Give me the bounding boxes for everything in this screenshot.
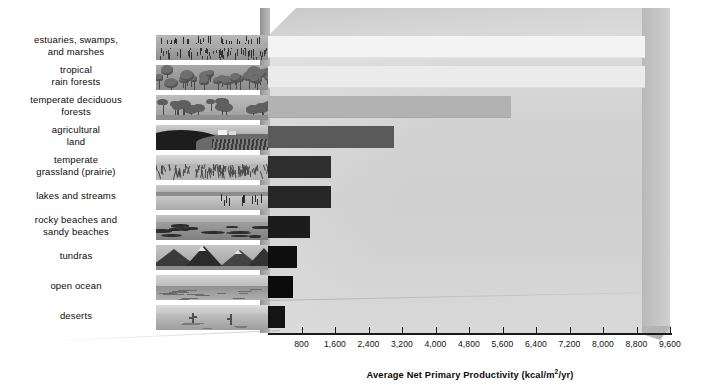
x-axis-tick-label: 5,600 [491, 339, 513, 349]
x-axis-tick-label: 9,600 [659, 339, 681, 349]
x-axis-tick [335, 327, 336, 334]
chart-canvas: estuaries, swamps,and marshestropicalrai… [0, 0, 706, 391]
x-axis-tick [469, 327, 470, 334]
x-axis-tick-label: 7,200 [558, 339, 580, 349]
category-label-line-1: agricultural [0, 124, 152, 136]
floor-guide-line-2 [40, 330, 280, 342]
bar [268, 36, 645, 58]
x-axis-tick [302, 327, 303, 334]
ecosystem-thumbnail [156, 125, 268, 150]
category-label: estuaries, swamps,and marshes [0, 34, 152, 57]
category-label: temperategrassland (prairie) [0, 154, 152, 177]
backdrop-right-face [642, 8, 670, 333]
category-label-line-1: rocky beaches and [0, 214, 152, 226]
x-axis-tick-label: 4,000 [424, 339, 446, 349]
category-label: tropicalrain forests [0, 64, 152, 87]
category-label-line-1: temperate deciduous [0, 94, 152, 106]
category-label-line-2: land [0, 136, 152, 148]
bar [268, 306, 285, 328]
ecosystem-thumbnail [156, 215, 268, 240]
bar [268, 66, 645, 88]
category-label: open ocean [0, 280, 152, 292]
category-label-line-1: lakes and streams [0, 190, 152, 202]
x-axis-title-tail: /yr) [558, 370, 573, 380]
ecosystem-thumbnail [156, 155, 268, 180]
category-label-line-1: tundras [0, 250, 152, 262]
bar [268, 246, 297, 268]
category-label: lakes and streams [0, 190, 152, 202]
x-axis-title: Average Net Primary Productivity (kcal/m… [268, 368, 672, 380]
x-axis-tick [603, 327, 604, 334]
x-axis-tick [402, 327, 403, 334]
category-label: tundras [0, 250, 152, 262]
category-label-line-1: temperate [0, 154, 152, 166]
ecosystem-thumbnail [156, 65, 268, 90]
ecosystem-thumbnail [156, 245, 268, 270]
category-label-line-1: estuaries, swamps, [0, 34, 152, 46]
x-axis-tick-label: 4,800 [458, 339, 480, 349]
category-label: deserts [0, 310, 152, 322]
category-label: temperate deciduousforests [0, 94, 152, 117]
bar [268, 186, 331, 208]
x-axis-tick [670, 327, 671, 334]
bar [268, 156, 331, 178]
x-axis-tick-label: 6,400 [525, 339, 547, 349]
x-axis-tick [436, 327, 437, 334]
x-axis-tick-label: 8,800 [625, 339, 647, 349]
x-axis-tick [536, 327, 537, 334]
ecosystem-thumbnail [156, 275, 268, 300]
x-axis-tick [503, 327, 504, 334]
x-axis-tick-label: 800 [294, 339, 309, 349]
category-label: agriculturalland [0, 124, 152, 147]
x-axis-tick-label: 1,600 [324, 339, 346, 349]
x-axis-title-text: Average Net Primary Productivity (kcal/m [367, 370, 555, 380]
ecosystem-thumbnail [156, 95, 268, 120]
bar [268, 126, 394, 148]
category-label-line-1: deserts [0, 310, 152, 322]
ecosystem-thumbnail [156, 185, 268, 210]
category-label-line-1: tropical [0, 64, 152, 76]
bar [268, 216, 310, 238]
category-label-line-2: forests [0, 106, 152, 118]
bar [268, 96, 511, 118]
x-axis-tick-label: 3,200 [391, 339, 413, 349]
category-label-line-2: grassland (prairie) [0, 166, 152, 178]
x-axis-tick [570, 327, 571, 334]
category-label-line-2: rain forests [0, 76, 152, 88]
category-label-line-2: and marshes [0, 46, 152, 58]
category-label-line-1: open ocean [0, 280, 152, 292]
x-axis-tick [637, 327, 638, 334]
x-axis-tick [369, 327, 370, 334]
x-axis-tick-label: 8,000 [592, 339, 614, 349]
backdrop-top-face [268, 8, 670, 36]
bar [268, 276, 293, 298]
x-axis-tick-label: 2,400 [357, 339, 379, 349]
category-label: rocky beaches andsandy beaches [0, 214, 152, 237]
ecosystem-thumbnail [156, 35, 268, 60]
category-label-line-2: sandy beaches [0, 226, 152, 238]
ecosystem-thumbnail [156, 305, 268, 330]
